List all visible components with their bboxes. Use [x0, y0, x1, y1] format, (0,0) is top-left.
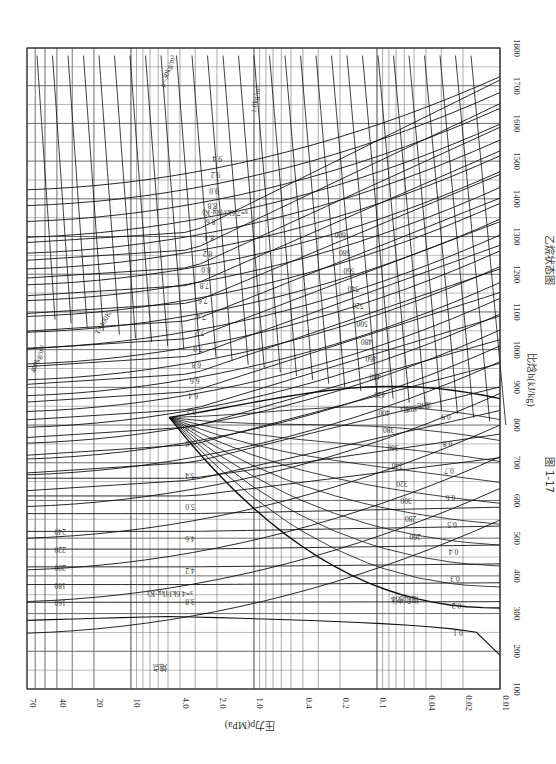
- chart-curve: [27, 283, 500, 396]
- pressure-tick-label: 40: [58, 699, 68, 709]
- isotherm-label: 280: [405, 514, 417, 523]
- quality-value-label: 0.5: [447, 520, 457, 529]
- chart-curve: [84, 56, 104, 331]
- enthalpy-tick-label: 600: [512, 494, 522, 508]
- isentrope-label: 9.2: [211, 170, 221, 179]
- figure-caption: 乙烷状态图: [544, 235, 556, 285]
- quality-value-label: 0.9: [441, 412, 451, 421]
- chart-curve: [27, 245, 500, 366]
- chart-curve: [37, 56, 55, 320]
- chart-curve: [27, 362, 500, 475]
- enthalpy-tick-label: 1400: [512, 190, 522, 209]
- pressure-tick-label: 10: [132, 699, 142, 709]
- chart-curve: [27, 458, 500, 496]
- isotherm-label: 220: [54, 545, 66, 554]
- pressure-axis-title: 压力p(MPa): [225, 719, 276, 732]
- chart-curve: [270, 56, 297, 377]
- quality-value-label: 0.8: [443, 439, 453, 448]
- quality-label: 湿饱和度x: [399, 400, 432, 415]
- isotherm-label: 560: [343, 266, 355, 275]
- isentrope-label: 8.2: [203, 249, 213, 258]
- isotherm-label: 440: [370, 372, 382, 381]
- quality-value-label: 0.2: [452, 601, 462, 610]
- chart-curve: [394, 56, 426, 407]
- isentrope-label: 6.8: [191, 360, 201, 369]
- chart-curve: [27, 124, 500, 237]
- pressure-tick-label: 2.0: [218, 697, 228, 709]
- enthalpy-tick-label: 1600: [512, 114, 522, 133]
- enthalpy-tick-label: 200: [512, 645, 522, 659]
- pressure-tick-label: 20: [95, 699, 105, 709]
- isochore-label-1-0: 1.0kg/m³: [249, 85, 263, 114]
- saturated-liquid-label: 饱和液体: [390, 595, 419, 605]
- isotherm-label: 380: [383, 425, 395, 434]
- isentrope-label: 9.0: [209, 186, 219, 195]
- enthalpy-tick-label: 1100: [512, 303, 522, 321]
- chart-curve: [363, 56, 394, 399]
- chart-curve: [99, 56, 119, 335]
- chart-curves: [27, 56, 506, 656]
- isentrope-label: 7.4: [196, 312, 206, 321]
- isotherm-label-400k: T=400K: [93, 309, 114, 336]
- figure-number: 图 1-17: [544, 457, 555, 493]
- enthalpy-tick-label: 1800: [512, 39, 522, 58]
- enthalpy-tick-label: 1500: [512, 152, 522, 171]
- enthalpy-tick-label: 1200: [512, 265, 522, 284]
- chart-curve: [68, 56, 87, 327]
- isentrope-label-7-6: s=7.6kJ/(kg·K): [202, 208, 248, 217]
- isentrope-label: 5.0: [185, 502, 195, 511]
- isotherm-label: 180: [54, 581, 66, 590]
- isochore-label-30: ρ=30kg/m³: [158, 53, 178, 88]
- isotherm-label: 240: [54, 527, 66, 536]
- isotherm-label: 300: [400, 496, 412, 505]
- chart-curve: [27, 545, 500, 549]
- isentrope-label: 6.2: [187, 407, 197, 416]
- pressure-tick-label: 0.04: [427, 695, 437, 711]
- pressure-enthalpy-chart: 1002003004005006007008009001000110012001…: [0, 0, 556, 764]
- isentrope-label: 4.2: [185, 566, 195, 575]
- isotherm-label: 480: [361, 337, 373, 346]
- chart-curve: [27, 251, 500, 364]
- isotherm-label: 360: [387, 443, 399, 452]
- isentrope-label: 9.4: [212, 154, 222, 163]
- isentrope-label: 6.4: [188, 391, 198, 400]
- quality-value-label: 0.6: [446, 493, 456, 502]
- isotherm-label: 340: [392, 461, 404, 470]
- isotherm-label: 200: [54, 563, 66, 572]
- enthalpy-axis-title: 比焓h(kJ/kg): [525, 353, 538, 406]
- pressure-tick-label: 0.4: [304, 697, 314, 709]
- quality-value-label: 0.3: [450, 574, 460, 583]
- enthalpy-tick-label: 800: [512, 418, 522, 432]
- isotherm-label: 420: [374, 390, 386, 399]
- chart-curve: [27, 616, 500, 655]
- isentrope-label: 7.8: [199, 281, 209, 290]
- pressure-tick-label: 0.1: [378, 697, 388, 708]
- isentrope-label: 7.2: [195, 328, 205, 337]
- isentrope-label: 4.6: [185, 534, 195, 543]
- isotherm-label: 260: [409, 532, 421, 541]
- pressure-tick-label: 0.2: [341, 697, 351, 708]
- chart-curve: [456, 56, 490, 422]
- isotherm-label: 520: [352, 301, 364, 310]
- isotherm-label: 320: [396, 479, 408, 488]
- isotherm-label: 580: [339, 248, 351, 257]
- isentrope-label: 5.4: [185, 471, 195, 480]
- enthalpy-tick-label: 1300: [512, 228, 522, 247]
- isentrope-label: 8.6: [206, 217, 216, 226]
- chart-curve: [27, 92, 500, 205]
- chart-curve: [27, 387, 500, 473]
- isentrope-label: 6.0: [185, 423, 195, 432]
- enthalpy-tick-label: 100: [512, 682, 522, 696]
- pressure-tick-label: 4.0: [181, 697, 191, 709]
- isentrope-label: 6.6: [190, 376, 200, 385]
- chart-curve: [27, 172, 500, 285]
- isotherm-label: 160: [54, 598, 66, 607]
- chart-curve: [27, 583, 500, 585]
- isotherm-label: 540: [348, 284, 360, 293]
- isentrope-label: 5.8: [185, 439, 195, 448]
- isentrope-label: 8.4: [204, 233, 214, 242]
- isentrope-label: 7.6: [198, 296, 208, 305]
- quality-value-label: 0.4: [449, 547, 459, 556]
- enthalpy-tick-label: 900: [512, 381, 522, 395]
- melting-line-label: 熔点: [152, 663, 167, 673]
